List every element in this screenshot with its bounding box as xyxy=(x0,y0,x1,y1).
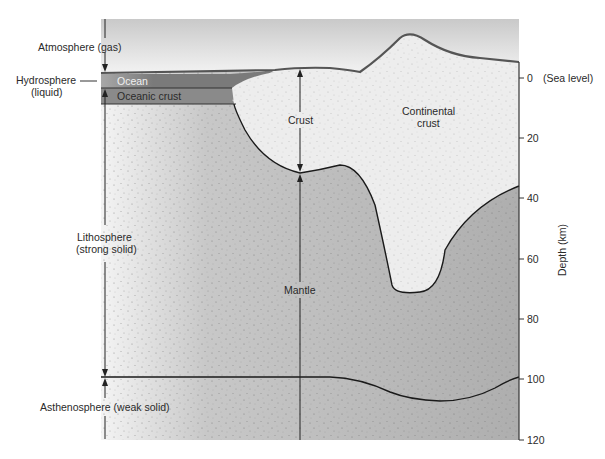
earth-layers-diagram: 0 (Sea level) 20 40 60 80 100 120 Depth … xyxy=(0,0,605,459)
hydrosphere-label-2: (liquid) xyxy=(31,86,63,98)
lithosphere-label-1: Lithosphere xyxy=(77,231,132,243)
hydrosphere-label-1: Hydrosphere xyxy=(16,74,76,86)
atmosphere-label: Atmosphere (gas) xyxy=(38,41,121,53)
tick-40: 40 xyxy=(527,192,539,204)
tick-60: 60 xyxy=(527,253,539,265)
depth-ticks xyxy=(519,78,524,440)
continental-crust-label-2: crust xyxy=(417,117,440,129)
tick-20: 20 xyxy=(527,132,539,144)
crust-label: Crust xyxy=(288,114,313,126)
depth-axis-label: Depth (km) xyxy=(556,224,568,276)
tick-0-suffix: (Sea level) xyxy=(543,72,593,84)
continental-crust-label-1: Continental xyxy=(402,105,455,117)
asthenosphere-label: Asthenosphere (weak solid) xyxy=(40,401,170,413)
lithosphere-label-2: (strong solid) xyxy=(76,243,137,255)
tick-80: 80 xyxy=(527,313,539,325)
oceanic-crust-label: Oceanic crust xyxy=(117,90,181,102)
tick-120: 120 xyxy=(527,434,545,446)
ocean-label: Ocean xyxy=(117,75,148,87)
tick-0: 0 xyxy=(527,72,533,84)
tick-100: 100 xyxy=(527,373,545,385)
mantle-label: Mantle xyxy=(284,284,316,296)
